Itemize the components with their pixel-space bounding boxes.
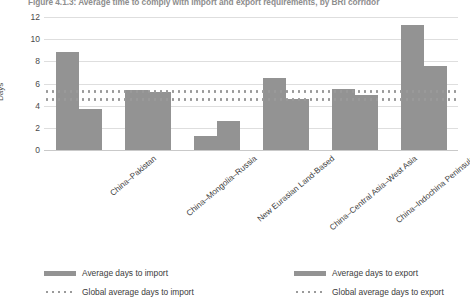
legend-dotted-swatch-icon [294, 290, 326, 294]
figure-title: Figure 4.1.3: Average time to comply wit… [28, 0, 468, 7]
bar [424, 66, 447, 150]
chart-legend: Average days to importAverage days to ex… [44, 268, 464, 307]
legend-label: Global average days to export [332, 287, 444, 297]
bar [194, 136, 217, 150]
bar [79, 109, 102, 150]
legend-solid-swatch-icon [44, 271, 76, 276]
bar [286, 99, 309, 150]
reference-line [44, 98, 458, 101]
bar [56, 52, 79, 150]
y-axis-tick-label: 8 [35, 56, 40, 66]
bar [355, 95, 378, 150]
legend-label: Global average days to import [82, 287, 194, 297]
x-axis-line [44, 150, 458, 151]
x-axis-labels: China–PakistanChina–Mongolia–RussiaNew E… [44, 152, 458, 252]
legend-solid-swatch-icon [294, 271, 326, 276]
y-axis-tick-label: 0 [35, 145, 40, 155]
bar [148, 92, 171, 150]
y-axis-title: Days [0, 83, 5, 101]
reference-line [44, 90, 458, 93]
y-axis-tick-label: 4 [35, 101, 40, 111]
plot-area [44, 17, 458, 150]
legend-dotted-swatch-icon [44, 290, 76, 294]
x-axis-label: China–Mongolia–Russia [184, 154, 258, 218]
legend-item: Average days to export [294, 268, 418, 278]
legend-item: Global average days to import [44, 287, 194, 297]
bars-layer [44, 17, 458, 150]
x-axis-label: China–Pakistan [108, 154, 158, 198]
y-axis-tick-label: 12 [31, 12, 40, 22]
legend-label: Average days to export [332, 268, 418, 278]
y-axis-tick-label: 2 [35, 123, 40, 133]
y-axis-tick-label: 10 [31, 34, 40, 44]
y-axis: Days 024681012 [0, 17, 44, 150]
figure-container: Figure 4.1.3: Average time to comply wit… [0, 0, 470, 307]
legend-label: Average days to import [82, 268, 168, 278]
x-axis-label: New Eurasian Land-Based [255, 154, 335, 224]
legend-item: Average days to import [44, 268, 168, 278]
y-axis-tick-label: 6 [35, 79, 40, 89]
bar [217, 121, 240, 150]
legend-item: Global average days to export [294, 287, 444, 297]
bar [401, 25, 424, 150]
